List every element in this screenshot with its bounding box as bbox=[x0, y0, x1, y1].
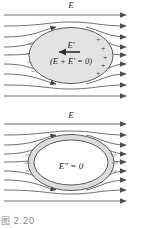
positive-charge-sign: + bbox=[101, 45, 106, 53]
positive-charge-sign: + bbox=[101, 62, 106, 70]
external-field-label-bottom: E bbox=[0, 111, 142, 120]
positive-charge-sign: + bbox=[96, 70, 101, 78]
external-field-label-top: E bbox=[0, 1, 142, 10]
solid-conductor-diagram bbox=[0, 0, 142, 110]
negative-charge-sign: − bbox=[31, 68, 36, 76]
panel-hollow-shell-conductor: E E″ = 0 bbox=[0, 110, 142, 213]
field-cancellation-equation: (E + E' = 0) bbox=[0, 57, 142, 66]
negative-charge-sign: − bbox=[27, 59, 32, 67]
negative-charge-sign: − bbox=[26, 50, 31, 58]
cavity-field-label: E″ = 0 bbox=[0, 162, 142, 171]
negative-charge-sign: − bbox=[28, 41, 33, 49]
figure-caption: 图 2.20 bbox=[1, 214, 35, 227]
induced-field-label: E' bbox=[0, 41, 142, 50]
positive-charge-sign: + bbox=[96, 36, 101, 44]
panel-solid-conductor: E E' (E + E' = 0) − − − − + + + + + bbox=[0, 0, 142, 110]
figure-container: E E' (E + E' = 0) − − − − + + + + + bbox=[0, 0, 142, 228]
